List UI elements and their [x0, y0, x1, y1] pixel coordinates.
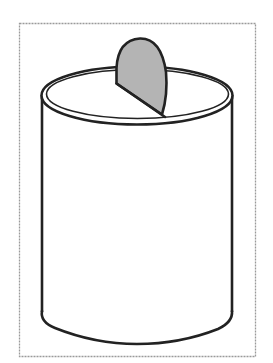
coin-bank-illustration — [0, 0, 273, 363]
can-bottom-curve — [42, 311, 232, 344]
